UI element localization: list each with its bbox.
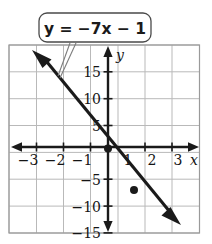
y-tick-label: −5 [80, 172, 101, 188]
plotted-point-one-negative-eight [130, 186, 138, 194]
x-tick-label: −2 [45, 152, 66, 168]
y-tick-label: 15 [83, 64, 101, 80]
graph-figure: −3 −2 −1 1 2 3 x 15 10 5 −5 −10 −15 y [0, 0, 212, 244]
y-tick-label: 10 [83, 91, 101, 107]
coordinate-plane-svg: −3 −2 −1 1 2 3 x 15 10 5 −5 −10 −15 y [0, 0, 212, 244]
x-tick-label: 2 [148, 152, 157, 168]
y-tick-label: −15 [71, 225, 101, 241]
x-tick-label: 3 [174, 152, 183, 168]
equation-callout: y = −7x − 1 [39, 13, 151, 42]
x-axis-label: x [190, 152, 198, 168]
y-axis-label: y [115, 47, 125, 63]
y-tick-label: −10 [71, 199, 101, 215]
x-tick-label: −3 [18, 152, 39, 168]
plotted-point-y-intercept [104, 145, 112, 153]
equation-text: y = −7x − 1 [44, 20, 146, 38]
x-tick-label: −1 [72, 152, 93, 168]
